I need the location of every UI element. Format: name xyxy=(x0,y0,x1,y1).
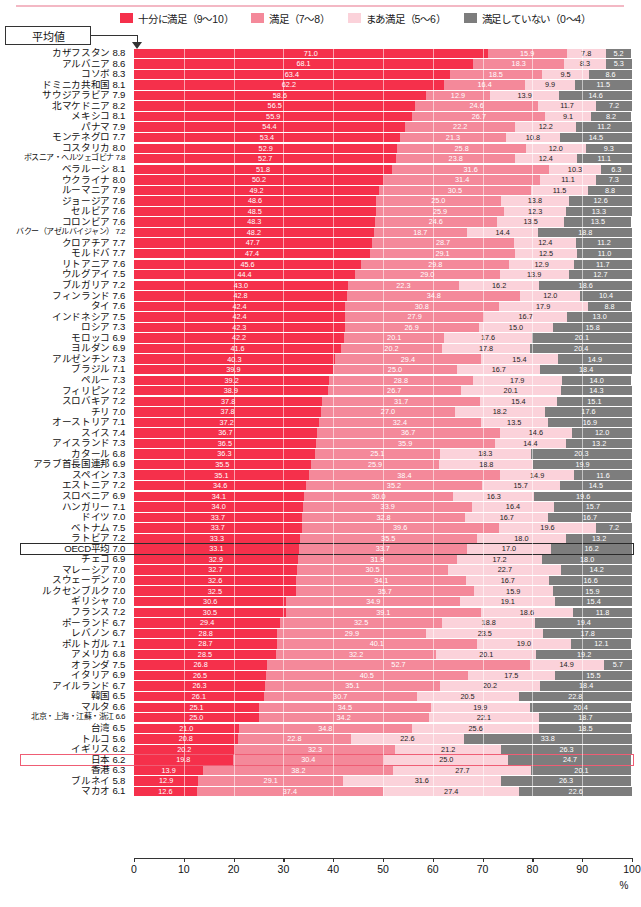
bar-segment-value: 56.5 xyxy=(134,101,415,110)
legend-swatch-somewhat_satisfied xyxy=(348,13,361,23)
bar-segment-value: 14.9 xyxy=(530,660,604,669)
bar-segment-value: 29.0 xyxy=(355,270,499,279)
bar-segment-value: 25.0 xyxy=(384,755,509,764)
bar-segment-value: 14.5 xyxy=(560,133,632,142)
bar-segment-満足していない（0～4）: 24.7 xyxy=(508,755,631,764)
bar-segment-value: 12.6 xyxy=(134,787,197,796)
bar-segment-十分に満足（9～10）: 36.3 xyxy=(134,449,315,458)
bar-segment-value: 55.9 xyxy=(134,112,412,121)
bar-segment-value: 32.4 xyxy=(319,418,480,427)
bar-segment-まあ満足（5～6）: 11.1 xyxy=(540,175,595,184)
bar-segment-value: 42.4 xyxy=(134,302,345,311)
bar-segment-十分に満足（9～10）: 12.9 xyxy=(134,776,198,785)
bar-segment-value: 25.8 xyxy=(397,144,525,153)
bar-segment-value: 13.0 xyxy=(567,312,632,321)
bar-segment-value: 17.6 xyxy=(444,333,532,342)
row-label-16: コロンビア 7.6 xyxy=(0,217,129,228)
bar-segment-満足（7～8）: 18.7 xyxy=(374,228,467,237)
bar-segment-value: 25.0 xyxy=(333,365,458,374)
bar-segment-満足していない（0～4）: 17.6 xyxy=(545,407,632,416)
x-axis-tick-label: 60 xyxy=(427,863,439,875)
bar-segment-まあ満足（5～6）: 14.4 xyxy=(467,228,539,237)
bar-segment-満足（7～8）: 22.3 xyxy=(348,281,459,290)
legend-label-somewhat_satisfied: まあ満足（5～6） xyxy=(366,11,446,26)
legend-item-not_satisfied: 満足していない（0～4） xyxy=(464,11,591,26)
bar-segment-十分に満足（9～10）: 13.9 xyxy=(134,766,203,775)
bar-segment-value: 8.8 xyxy=(588,302,632,311)
bar-segment-value: 28.7 xyxy=(372,238,515,247)
bar-segment-十分に満足（9～10）: 38.9 xyxy=(134,386,328,395)
bar-segment-まあ満足（5～6）: 12.9 xyxy=(509,260,573,269)
bar-segment-value: 15.4 xyxy=(481,354,558,363)
bar-segment-満足していない（0～4）: 13.0 xyxy=(567,312,632,321)
bar-segment-まあ満足（5～6）: 18.2 xyxy=(455,407,545,416)
bar-segment-十分に満足（9～10）: 20.8 xyxy=(134,734,238,743)
bar-segment-十分に満足（9～10）: 54.4 xyxy=(134,122,405,131)
bar-segment-十分に満足（9～10）: 37.8 xyxy=(134,397,322,406)
bar-segment-満足していない（0～4）: 19.4 xyxy=(535,618,632,627)
legend-label-not_satisfied: 満足していない（0～4） xyxy=(482,11,591,26)
bar-segment-value: 21.2 xyxy=(395,745,501,754)
bar-segment-value: 34.5 xyxy=(259,703,431,712)
bar-segment-満足（7～8）: 32.5 xyxy=(280,618,442,627)
bar-segment-value: 16.2 xyxy=(551,544,632,553)
bar-segment-value: 18.0 xyxy=(542,555,632,564)
bar-segment-満足していない（0～4）: 5.3 xyxy=(606,59,632,68)
chart-row: ベラルーシ 8.151.831.610.36.3 xyxy=(0,164,640,175)
bar-segment-value: 34.1 xyxy=(296,576,466,585)
bar-segment-まあ満足（5～6）: 20.1 xyxy=(461,386,561,395)
bar-segment-満足（7～8）: 31.6 xyxy=(392,165,549,174)
bar-segment-まあ満足（5～6）: 22.7 xyxy=(448,565,561,574)
bar-segment-まあ満足（5～6）: 17.9 xyxy=(499,302,588,311)
bar-segment-満足していない（0～4）: 6.3 xyxy=(601,165,632,174)
bar-segment-value: 26.3 xyxy=(501,776,632,785)
bar-segment-十分に満足（9～10）: 36.5 xyxy=(134,439,316,448)
bar-segment-value: 33.3 xyxy=(134,534,300,543)
bar-segment-まあ満足（5～6）: 18.6 xyxy=(481,608,574,617)
bar-segment-まあ満足（5～6）: 18.8 xyxy=(439,460,533,469)
bar-segment-value: 38.4 xyxy=(309,470,500,479)
bar-segment-十分に満足（9～10）: 33.1 xyxy=(134,544,299,553)
bar-segment-まあ満足（5～6）: 15.9 xyxy=(474,586,553,595)
bar-segment-満足していない（0～4）: 7.2 xyxy=(596,101,632,110)
bar-segment-value: 36.5 xyxy=(134,439,316,448)
bar-segment-十分に満足（9～10）: 32.7 xyxy=(134,565,297,574)
bar-segment-value: 29.1 xyxy=(370,249,515,258)
bar-segment-満足していない（0～4）: 15.7 xyxy=(554,502,632,511)
bar-segment-value: 17.9 xyxy=(499,302,588,311)
bar-segment-まあ満足（5～6）: 18.0 xyxy=(477,534,567,543)
bar-segment-value: 32.6 xyxy=(134,576,296,585)
bar-segment-value: 16.6 xyxy=(549,576,632,585)
bar-segment-value: 11.5 xyxy=(531,186,588,195)
bar-segment-満足していない（0～4）: 19.2 xyxy=(536,650,632,659)
bar-segment-value: 12.9 xyxy=(134,776,198,785)
bar-segment-十分に満足（9～10）: 62.2 xyxy=(134,80,444,89)
bar-segment-value: 32.7 xyxy=(134,565,297,574)
bar-segment-満足（7～8）: 35.7 xyxy=(296,586,474,595)
bar-segment-まあ満足（5～6）: 14.9 xyxy=(530,660,604,669)
bar-segment-value: 45.6 xyxy=(134,260,361,269)
bar-segment-value: 34.9 xyxy=(286,597,460,606)
bar-segment-value: 26.3 xyxy=(134,681,265,690)
bar-segment-value: 37.2 xyxy=(134,418,319,427)
bar-segment-まあ満足（5～6）: 17.0 xyxy=(467,544,552,553)
bar-segment-満足（7～8）: 23.8 xyxy=(396,154,515,163)
bar-segment-満足（7～8）: 29.0 xyxy=(355,270,499,279)
bar-segment-満足していない（0～4）: 13.2 xyxy=(566,534,632,543)
bar-segment-value: 14.9 xyxy=(500,470,574,479)
legend-label-very_satisfied: 十分に満足（9～10） xyxy=(138,11,233,26)
bar-segment-value: 22.3 xyxy=(348,281,459,290)
bar-segment-満足（7～8）: 38.4 xyxy=(309,470,500,479)
gridline xyxy=(383,48,384,858)
bar-segment-満足していない（0～4）: 11.2 xyxy=(576,238,632,247)
bar-segment-value: 19.1 xyxy=(460,597,555,606)
bar-segment-value: 16.4 xyxy=(472,502,554,511)
bar-segment-まあ満足（5～6）: 17.8 xyxy=(442,344,531,353)
bar-segment-value: 30.0 xyxy=(304,492,453,501)
x-axis-tick xyxy=(383,858,384,862)
bar-segment-十分に満足（9～10）: 28.8 xyxy=(134,629,277,638)
bar-segment-value: 12.3 xyxy=(504,207,565,216)
bar-segment-value: 18.8 xyxy=(538,228,632,237)
bar-segment-value: 18.0 xyxy=(477,534,567,543)
bar-segment-満足していない（0～4）: 8.8 xyxy=(588,302,632,311)
